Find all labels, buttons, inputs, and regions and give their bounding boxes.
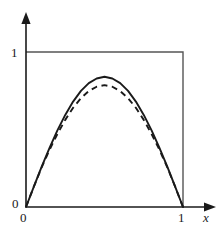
unit-box-frame [26, 52, 183, 207]
x-axis-tick-label-0: 0 [20, 211, 27, 224]
x-axis-name-label: x [203, 211, 209, 224]
y-axis [21, 12, 30, 207]
figure-container: 1 0 0 1 x [0, 0, 223, 234]
solid-curve [26, 77, 183, 207]
plot-canvas [0, 0, 223, 234]
y-axis-tick-label-1: 1 [11, 46, 18, 59]
x-axis [26, 202, 216, 211]
x-axis-tick-label-1: 1 [178, 211, 185, 224]
y-axis-tick-label-0: 0 [12, 197, 19, 210]
